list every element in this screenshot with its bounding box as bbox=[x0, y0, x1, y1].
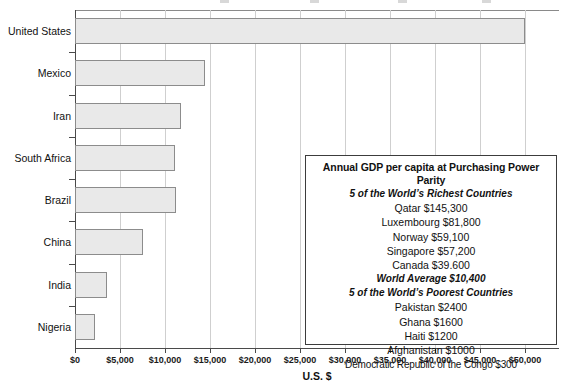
y-tick bbox=[69, 264, 75, 265]
x-tick bbox=[165, 349, 166, 353]
category-label: South Africa bbox=[14, 152, 71, 164]
poorest-country-item: Pakistan $2400 bbox=[310, 300, 552, 314]
category-label: China bbox=[44, 236, 71, 248]
x-tick-label: $15,000 bbox=[194, 355, 227, 365]
bar bbox=[75, 60, 205, 86]
richest-country-item: Luxembourg $81,800 bbox=[310, 215, 552, 229]
richest-country-item: Canada $39.600 bbox=[310, 258, 552, 272]
gridline bbox=[255, 10, 256, 348]
y-tick bbox=[69, 52, 75, 53]
bar bbox=[75, 18, 525, 44]
poorest-country-item: Afghanistan $1000 bbox=[310, 343, 552, 357]
x-tick-label: $0 bbox=[70, 355, 80, 365]
bar bbox=[75, 229, 143, 255]
category-label: India bbox=[48, 279, 71, 291]
x-tick-label: $20,000 bbox=[239, 355, 272, 365]
category-label: Brazil bbox=[45, 194, 71, 206]
x-tick bbox=[120, 349, 121, 353]
annotation-textbox: Annual GDP per capita at Purchasing Powe… bbox=[305, 155, 557, 345]
annotation-world-average: World Average $10,400 bbox=[310, 272, 552, 286]
gdp-per-capita-bar-chart: $0$5,000$10,000$15,000$20,000$25,000$30,… bbox=[0, 0, 568, 388]
poorest-country-item: Democratic Republic of the Congo $300 bbox=[310, 358, 552, 372]
y-tick bbox=[69, 179, 75, 180]
y-tick bbox=[69, 306, 75, 307]
poorest-country-item: Ghana $1600 bbox=[310, 315, 552, 329]
category-label: United States bbox=[8, 25, 71, 37]
x-tick bbox=[300, 349, 301, 353]
gridline bbox=[210, 10, 211, 348]
bar bbox=[75, 187, 176, 213]
x-tick bbox=[75, 349, 76, 353]
category-label: Iran bbox=[53, 110, 71, 122]
category-label: Nigeria bbox=[38, 321, 71, 333]
richest-country-item: Qatar $145,300 bbox=[310, 201, 552, 215]
bar bbox=[75, 103, 181, 129]
x-tick bbox=[210, 349, 211, 353]
category-label: Mexico bbox=[38, 67, 71, 79]
annotation-poorest-heading: 5 of the World’s Poorest Countries bbox=[310, 286, 552, 300]
poorest-country-item: Haiti $1200 bbox=[310, 329, 552, 343]
x-tick-label: $5,000 bbox=[106, 355, 134, 365]
richest-countries-list: Qatar $145,300Luxembourg $81,800Norway $… bbox=[310, 201, 552, 272]
y-tick bbox=[69, 137, 75, 138]
y-tick bbox=[69, 95, 75, 96]
cropped-title-remnant bbox=[0, 0, 568, 3]
gridline bbox=[300, 10, 301, 348]
x-tick-label: $10,000 bbox=[149, 355, 182, 365]
poorest-countries-list: Pakistan $2400Ghana $1600Haiti $1200Afgh… bbox=[310, 300, 552, 371]
bar bbox=[75, 272, 107, 298]
annotation-heading: Annual GDP per capita at Purchasing Powe… bbox=[310, 161, 552, 187]
annotation-richest-heading: 5 of the World’s Richest Countries bbox=[310, 187, 552, 201]
y-tick bbox=[69, 221, 75, 222]
x-tick bbox=[255, 349, 256, 353]
bar bbox=[75, 145, 175, 171]
bar bbox=[75, 314, 95, 340]
richest-country-item: Singapore $57,200 bbox=[310, 244, 552, 258]
plot-top-border bbox=[75, 10, 559, 11]
richest-country-item: Norway $59,100 bbox=[310, 230, 552, 244]
